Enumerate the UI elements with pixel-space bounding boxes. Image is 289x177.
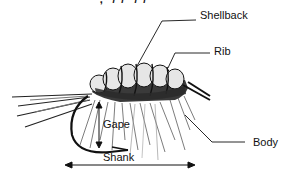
gape-arrow [96,102,102,148]
label-rib: Rib [214,46,231,57]
label-shank: Shank [103,152,134,163]
fly-illustration [0,0,289,177]
label-gape: Gape [103,119,130,130]
tail-fibers [12,94,92,127]
label-body: Body [253,137,278,148]
label-shellback: Shellback [200,10,248,21]
hook-eye [183,82,210,100]
